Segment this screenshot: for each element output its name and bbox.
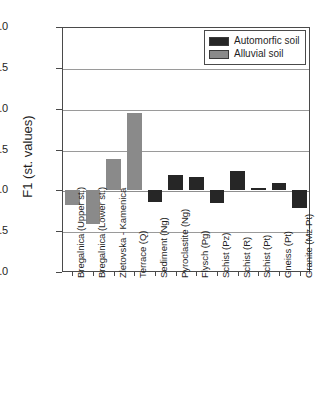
bar (106, 159, 121, 190)
legend-item: Alluvial soil (209, 48, 300, 60)
x-tick-label: Schist (Pt) (262, 235, 272, 278)
y-tick-label: -1.0 (0, 266, 8, 277)
x-tick-label: Sediment (Ng) (159, 217, 169, 278)
legend-label: Alluvial soil (234, 49, 283, 59)
y-tick-label: -0.5 (0, 225, 8, 236)
y-axis-label: F1 (st. values) (20, 57, 35, 257)
x-tick-mark (134, 272, 135, 276)
x-tick-mark (238, 272, 239, 276)
legend-swatch (209, 50, 229, 59)
bar (148, 190, 163, 201)
bar (292, 190, 307, 208)
y-tick-label: 1.0 (0, 103, 8, 114)
x-tick-mark (196, 272, 197, 276)
x-tick-label: Flysch (Pg) (200, 231, 210, 278)
x-tick-label: Granite (Mz-Pt) (304, 214, 314, 278)
y-tick-mark (56, 272, 62, 273)
x-tick-label: Terrace (Q) (138, 231, 148, 278)
x-tick-mark (217, 272, 218, 276)
bar-chart: F1 (st. values) 2.01.51.00.50.0-0.5-1.0 … (0, 0, 326, 396)
legend: Automorfic soilAlluvial soil (204, 30, 306, 65)
y-tick-label: 0.5 (0, 144, 8, 155)
x-tick-label: Bregalnica (Upper st.) (76, 187, 86, 278)
legend-item: Automorfic soil (209, 35, 300, 47)
legend-label: Automorfic soil (234, 36, 300, 46)
x-tick-mark (155, 272, 156, 276)
bar (210, 190, 225, 202)
bar (127, 113, 142, 191)
x-tick-label: Zletovska - Kamenica (118, 188, 128, 278)
x-tick-mark (114, 272, 115, 276)
x-tick-mark (176, 272, 177, 276)
x-tick-label: Schist (Pz) (221, 233, 231, 278)
x-tick-label: Schist (R) (242, 237, 252, 278)
x-tick-mark (300, 272, 301, 276)
x-tick-label: Gneiss (Pt) (283, 231, 293, 278)
bar (272, 183, 287, 190)
x-tick-label: Bregalnica (Lower st.) (97, 187, 107, 278)
x-tick-mark (93, 272, 94, 276)
x-tick-label: Pyroclastite (Ng) (180, 209, 190, 278)
bar (251, 188, 266, 190)
legend-swatch (209, 37, 229, 46)
y-tick-label: 1.5 (0, 62, 8, 73)
y-tick-label: 2.0 (0, 21, 8, 32)
bar (168, 175, 183, 191)
y-tick-label: 0.0 (0, 184, 8, 195)
bar (189, 177, 204, 190)
x-tick-mark (258, 272, 259, 276)
bar (230, 171, 245, 191)
x-tick-mark (279, 272, 280, 276)
x-tick-mark (72, 272, 73, 276)
